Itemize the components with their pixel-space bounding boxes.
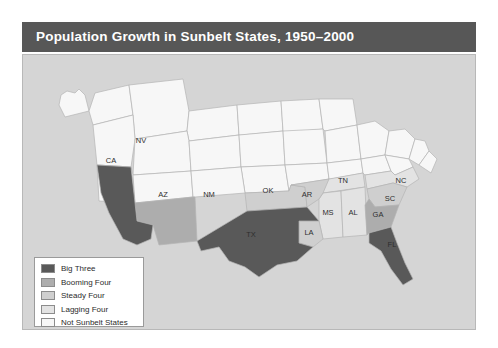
legend-item-booming-four: Booming Four — [41, 276, 143, 289]
legend-swatch-steady-four — [41, 291, 55, 300]
state-label-MS: MS — [322, 208, 333, 217]
state-label-TN: TN — [338, 176, 348, 185]
legend-label-booming-four: Booming Four — [61, 278, 111, 287]
state-label-LA: LA — [304, 228, 313, 237]
state-label-AR: AR — [302, 190, 313, 199]
legend-swatch-big-three — [41, 264, 55, 273]
state-label-NC: NC — [396, 176, 407, 185]
legend-item-not-sunbelt: Not Sunbelt States — [41, 316, 143, 329]
legend-item-big-three: Big Three — [41, 262, 143, 275]
title-bar: Population Growth in Sunbelt States, 195… — [22, 22, 476, 52]
legend-item-lagging-four: Lagging Four — [41, 303, 143, 316]
state-label-NV: NV — [136, 136, 146, 145]
state-label-AL: AL — [348, 208, 357, 217]
figure: Population Growth in Sunbelt States, 195… — [22, 22, 476, 330]
map-legend: Big Three Booming Four Steady Four Laggi… — [34, 257, 144, 327]
state-label-SC: SC — [385, 194, 396, 203]
state-label-FL: FL — [388, 240, 397, 249]
legend-item-steady-four: Steady Four — [41, 289, 143, 302]
legend-label-lagging-four: Lagging Four — [61, 305, 108, 314]
legend-label-not-sunbelt: Not Sunbelt States — [61, 318, 128, 327]
state-label-NM: NM — [203, 190, 215, 199]
state-label-TX: TX — [246, 230, 256, 239]
legend-swatch-booming-four — [41, 278, 55, 287]
page-title: Population Growth in Sunbelt States, 195… — [36, 29, 354, 44]
state-label-AZ: AZ — [158, 190, 168, 199]
map-panel: NV CA AZ NM OK TX AR LA MS AL TN GA FL S… — [22, 54, 476, 330]
state-label-CA: CA — [106, 156, 116, 165]
state-label-OK: OK — [263, 186, 274, 195]
state-FL — [369, 227, 413, 285]
legend-swatch-lagging-four — [41, 305, 55, 314]
legend-label-steady-four: Steady Four — [61, 291, 105, 300]
state-label-GA: GA — [373, 210, 384, 219]
legend-label-big-three: Big Three — [61, 264, 96, 273]
legend-swatch-not-sunbelt — [41, 318, 55, 327]
